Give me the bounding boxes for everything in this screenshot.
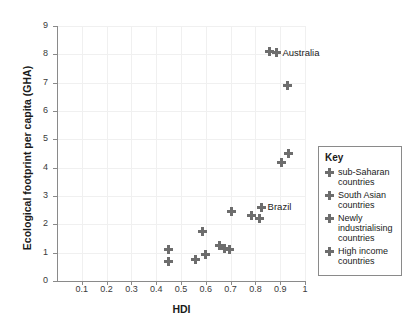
gridline-horizontal	[57, 26, 305, 27]
legend-item[interactable]: South Asian countries	[325, 190, 396, 210]
marker-bar-vertical	[201, 227, 204, 236]
x-tick-label: 0.7	[218, 285, 244, 294]
data-point	[225, 245, 234, 254]
legend-box: Key sub-Saharan countriesSouth Asian cou…	[318, 146, 402, 276]
data-point	[257, 203, 266, 212]
point-label: Brazil	[268, 202, 292, 211]
y-axis-line	[57, 26, 58, 282]
y-tick-mark	[53, 253, 57, 254]
plus-marker-icon	[325, 214, 334, 223]
marker-bar-vertical	[260, 203, 263, 212]
y-tick-mark	[53, 224, 57, 225]
y-tick-label: 9	[24, 21, 48, 30]
gridline-vertical	[107, 26, 108, 281]
data-point	[201, 250, 210, 259]
gridline-horizontal	[57, 253, 305, 254]
marker-bar-vertical	[280, 158, 283, 167]
y-tick-mark	[53, 139, 57, 140]
y-tick-mark	[53, 26, 57, 27]
legend-item-label: High income countries	[338, 246, 396, 266]
y-tick-mark	[53, 111, 57, 112]
data-point	[272, 48, 281, 57]
x-tick-label: 0.9	[267, 285, 293, 294]
data-point	[283, 81, 292, 90]
point-label: Australia	[282, 48, 319, 57]
data-point	[227, 207, 236, 216]
data-point	[198, 227, 207, 236]
x-tick-label: 0.1	[69, 285, 95, 294]
legend-item[interactable]: Newly industrialising countries	[325, 213, 396, 243]
marker-bar-vertical	[286, 81, 289, 90]
data-point	[255, 214, 264, 223]
gridline-vertical	[280, 26, 281, 281]
gridline-vertical	[156, 26, 157, 281]
data-point	[191, 255, 200, 264]
legend-item-label: Newly industrialising countries	[338, 213, 396, 243]
marker-bar-vertical	[167, 257, 170, 266]
gridline-vertical	[255, 26, 256, 281]
gridline-vertical	[131, 26, 132, 281]
data-point	[164, 245, 173, 254]
marker-bar-vertical	[230, 207, 233, 216]
marker-bar-vertical	[228, 245, 231, 254]
x-tick-label: 0.6	[193, 285, 219, 294]
y-tick-mark	[53, 168, 57, 169]
x-tick-label: 0.3	[118, 285, 144, 294]
gridline-vertical	[82, 26, 83, 281]
marker-bar-vertical	[204, 250, 207, 259]
gridline-horizontal	[57, 83, 305, 84]
marker-bar-vertical	[167, 245, 170, 254]
gridline-vertical	[231, 26, 232, 281]
legend-items: sub-Saharan countriesSouth Asian countri…	[325, 167, 396, 266]
legend-item[interactable]: High income countries	[325, 246, 396, 266]
gridline-horizontal	[57, 196, 305, 197]
gridline-horizontal	[57, 111, 305, 112]
legend-title: Key	[325, 152, 396, 163]
data-point	[277, 158, 286, 167]
x-axis-title: HDI	[57, 303, 306, 315]
legend-item-label: sub-Saharan countries	[338, 167, 396, 187]
plus-marker-icon	[325, 191, 334, 200]
marker-bar-vertical	[287, 149, 290, 158]
x-tick-label: 0.4	[143, 285, 169, 294]
plot-area	[57, 26, 305, 281]
x-tick-label: 1	[292, 285, 318, 294]
x-tick-label: 0.8	[242, 285, 268, 294]
y-axis-title: Ecological footprint per capita (GHA)	[21, 33, 33, 283]
gridline-vertical	[206, 26, 207, 281]
marker-bar-vertical	[268, 47, 271, 56]
gridline-vertical	[181, 26, 182, 281]
y-tick-mark	[53, 196, 57, 197]
marker-bar-vertical	[258, 214, 261, 223]
data-point	[284, 149, 293, 158]
plus-marker-icon	[325, 168, 334, 177]
y-tick-mark	[53, 54, 57, 55]
gridline-horizontal	[57, 139, 305, 140]
scatter-chart: 0123456789 0.10.20.30.40.50.60.70.80.91 …	[0, 0, 410, 329]
legend-item-label: South Asian countries	[338, 190, 396, 210]
gridline-vertical	[305, 26, 306, 281]
plus-marker-icon	[325, 247, 334, 256]
y-tick-mark	[53, 83, 57, 84]
x-tick-label: 0.5	[168, 285, 194, 294]
marker-bar-vertical	[250, 211, 253, 220]
marker-bar-vertical	[194, 255, 197, 264]
legend-item[interactable]: sub-Saharan countries	[325, 167, 396, 187]
y-tick-mark	[53, 281, 57, 282]
marker-bar-vertical	[275, 48, 278, 57]
x-tick-label: 0.2	[94, 285, 120, 294]
gridline-horizontal	[57, 168, 305, 169]
gridline-horizontal	[57, 224, 305, 225]
data-point	[164, 257, 173, 266]
